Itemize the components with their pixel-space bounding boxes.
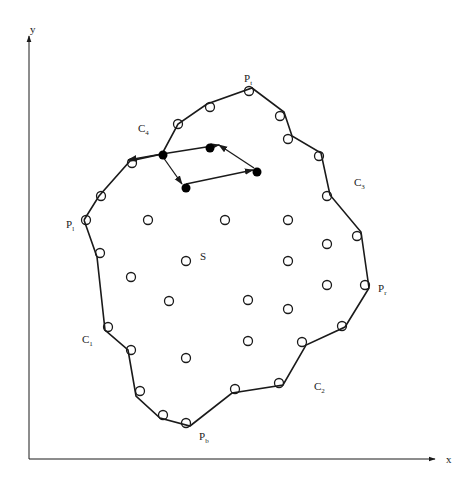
label-c-4: C4 <box>138 122 149 137</box>
filled-point-f1 <box>159 151 168 160</box>
label-p-b: Pb <box>199 430 209 445</box>
diagram-canvas: xy PtPlPrPbC1C2C3C4S <box>0 0 476 484</box>
label-c-3: C3 <box>354 176 365 191</box>
boundary-point <box>276 112 285 121</box>
x-axis-label: x <box>446 453 452 465</box>
label-c-2: C2 <box>314 380 325 395</box>
interior-point <box>323 281 332 290</box>
interior-point <box>182 354 191 363</box>
path-arrow <box>186 170 253 184</box>
interior-point <box>284 305 293 314</box>
boundary-sample-points <box>82 87 370 428</box>
label-s: S <box>200 250 206 262</box>
filled-point-f3 <box>253 168 262 177</box>
labels: PtPlPrPbC1C2C3C4S <box>66 72 387 445</box>
label-c-1: C1 <box>82 333 93 348</box>
region-contour-diagram: xy PtPlPrPbC1C2C3C4S <box>0 0 476 484</box>
interior-point <box>284 257 293 266</box>
interior-point <box>284 216 293 225</box>
boundary-point <box>206 103 215 112</box>
interior-point <box>182 257 191 266</box>
boundary-point <box>136 387 145 396</box>
label-p-r: Pr <box>378 282 387 297</box>
interior-point <box>244 296 253 305</box>
interior-point <box>165 297 174 306</box>
y-axis-label: y <box>30 23 36 35</box>
interior-sample-points <box>127 216 332 363</box>
filled-point-f2 <box>206 144 215 153</box>
interior-point <box>221 216 230 225</box>
path-arrow <box>219 145 254 168</box>
boundary-point <box>298 338 307 347</box>
path-arrow <box>163 157 182 184</box>
filled-points <box>159 144 262 193</box>
boundary-polyline <box>84 88 369 426</box>
boundary-point <box>96 249 105 258</box>
interior-point <box>127 273 136 282</box>
label-p-l: Pl <box>66 218 74 233</box>
interior-point <box>323 240 332 249</box>
filled-point-f4 <box>182 184 191 193</box>
boundary-point <box>284 135 293 144</box>
boundary-point <box>353 232 362 241</box>
interior-point <box>144 216 153 225</box>
boundary-contour <box>84 88 369 426</box>
interior-point <box>244 337 253 346</box>
boundary-point <box>182 419 191 428</box>
label-p-t: Pt <box>244 72 252 87</box>
